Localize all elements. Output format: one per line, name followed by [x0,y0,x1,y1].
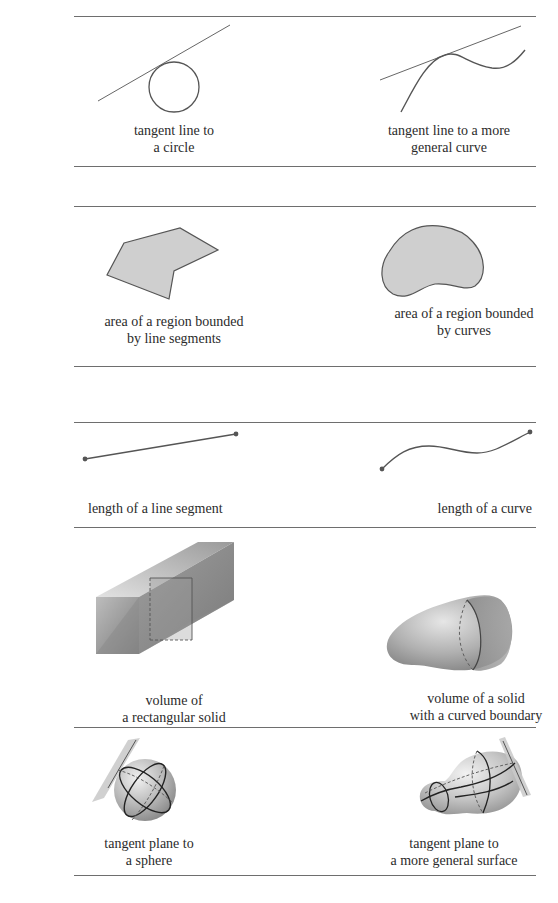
rectangular-solid-icon [0,530,279,670]
caption-volume-curved: volume of a solid with a curved boundary [401,690,551,724]
tangent-plane-sphere-icon [60,730,200,830]
divider-bottom [74,875,536,876]
curved-solid-icon [279,570,558,680]
caption-plane-surface: tangent plane to a more general surface [379,835,529,869]
caption-tangent-circle: tangent line to a circle [124,122,224,156]
curve-length-icon [279,420,558,480]
caption-plane-sphere: tangent plane to a sphere [94,835,204,869]
tangent-line-curve-icon [279,0,558,120]
tangent-plane-surface-icon [395,735,540,830]
divider [74,366,536,367]
divider [74,727,536,728]
caption-volume-rect: volume of a rectangular solid [104,692,244,726]
caption-area-curves: area of a region bounded by curves [384,305,544,339]
divider [74,166,536,167]
tangent-line-circle-icon [0,0,279,120]
line-segment-icon [0,420,279,480]
caption-tangent-curve: tangent line to a more general curve [379,122,519,156]
caption-length-curve: length of a curve [395,500,532,517]
divider [74,527,536,528]
caption-length-segment: length of a line segment [88,500,258,517]
caption-area-segments: area of a region bounded by line segment… [94,313,254,347]
curved-region-icon [279,200,558,320]
polygon-region-icon [0,200,279,320]
